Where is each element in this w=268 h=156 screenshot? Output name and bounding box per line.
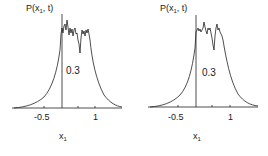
x-tick-label-pos: 1 [93, 113, 98, 122]
plot-left [0, 0, 134, 156]
distribution-curve [14, 20, 122, 108]
x-axis-label: x1 [59, 132, 67, 141]
annotation-label: 0.3 [66, 66, 80, 76]
y-axis-label: P(x1, t) [160, 4, 187, 13]
chart-panel-left: P(x1, t) 0.3 -0.5 1 x1 [0, 0, 134, 156]
y-axis-label: P(x1, t) [26, 4, 53, 13]
annotation-label: 0.3 [202, 68, 216, 78]
x-tick-label-neg: -0.5 [168, 113, 184, 122]
x-tick-label-pos: 1 [228, 113, 233, 122]
distribution-curve [150, 22, 258, 107]
x-tick-label-neg: -0.5 [34, 113, 50, 122]
x-axis-label: x1 [193, 132, 201, 141]
chart-panel-right: P(x1, t) 0.3 -0.5 1 x1 [134, 0, 268, 156]
plot-right [134, 0, 268, 156]
